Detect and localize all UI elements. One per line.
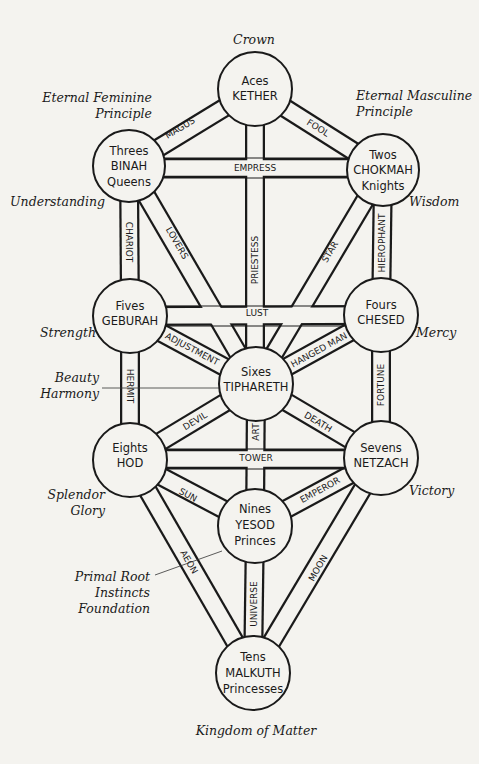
instincts-label: Instincts bbox=[94, 585, 150, 600]
path-label-art: ART bbox=[251, 423, 261, 441]
geburah-line2: GEBURAH bbox=[102, 314, 159, 328]
hod-line2: HOD bbox=[117, 456, 144, 470]
path-label-hierophant: HIEROPHANT bbox=[377, 213, 387, 273]
kingdom-of-matter-label: Kingdom of Matter bbox=[195, 723, 318, 738]
chokmah-line1: Twos bbox=[368, 148, 397, 162]
tree-of-life-diagram: MAGUS FOOL EMPRESS PRIESTESS CHARIOT LOV… bbox=[0, 0, 479, 764]
splendor-label: Splendor bbox=[47, 487, 106, 502]
eternal-masculine-principle-label: Principle bbox=[355, 104, 413, 119]
netzach-line2: NETZACH bbox=[353, 456, 408, 470]
chokmah-line3: Knights bbox=[361, 179, 404, 193]
yesod-line3: Princes bbox=[234, 534, 275, 548]
hod-line1: Eights bbox=[112, 441, 148, 455]
malkuth-line3: Princesses bbox=[223, 682, 283, 696]
strength-label: Strength bbox=[40, 325, 96, 340]
chesed-line2: CHESED bbox=[357, 313, 405, 327]
path-label-chariot: CHARIOT bbox=[124, 222, 134, 263]
beauty-label: Beauty bbox=[54, 370, 100, 385]
crown-label: Crown bbox=[233, 32, 275, 47]
path-label-lust: LUST bbox=[246, 308, 269, 318]
sephirah-tiphareth: Sixes TIPHARETH bbox=[219, 347, 293, 421]
sephirah-kether: Aces KETHER bbox=[218, 52, 292, 126]
geburah-line1: Fives bbox=[116, 299, 145, 313]
sephirah-chesed: Fours CHESED bbox=[344, 278, 418, 352]
yesod-line2: YESOD bbox=[234, 518, 275, 532]
chesed-line1: Fours bbox=[365, 298, 396, 312]
eternal-feminine-label: Eternal Feminine bbox=[41, 90, 152, 105]
netzach-line1: Sevens bbox=[360, 441, 402, 455]
mercy-label: Mercy bbox=[415, 325, 457, 340]
eternal-feminine-principle-label: Principle bbox=[94, 106, 152, 121]
binah-line2: BINAH bbox=[111, 159, 147, 173]
chokmah-line2: CHOKMAH bbox=[353, 163, 413, 177]
sephirah-netzach: Sevens NETZACH bbox=[344, 421, 418, 495]
sephirah-geburah: Fives GEBURAH bbox=[93, 279, 167, 353]
primal-root-label: Primal Root bbox=[74, 569, 151, 584]
yesod-line1: Nines bbox=[239, 502, 271, 516]
understanding-label: Understanding bbox=[10, 194, 105, 209]
path-label-hermit: HERMIT bbox=[125, 369, 135, 404]
glory-label: Glory bbox=[70, 503, 105, 518]
sephirah-malkuth: Tens MALKUTH Princesses bbox=[216, 636, 290, 710]
path-label-fortune: FORTUNE bbox=[376, 364, 386, 407]
sephirah-binah: Threes BINAH Queens bbox=[93, 130, 165, 202]
path-label-tower: TOWER bbox=[238, 453, 272, 463]
sephirah-hod: Eights HOD bbox=[93, 423, 167, 497]
tiphareth-line2: TIPHARETH bbox=[223, 380, 289, 394]
tiphareth-line1: Sixes bbox=[241, 365, 271, 379]
path-label-priestess: PRIESTESS bbox=[250, 236, 260, 285]
foundation-label: Foundation bbox=[77, 601, 150, 616]
binah-line3: Queens bbox=[107, 175, 151, 189]
path-label-universe: UNIVERSE bbox=[249, 581, 259, 627]
malkuth-line1: Tens bbox=[239, 650, 265, 664]
kether-line2: KETHER bbox=[232, 89, 278, 103]
wisdom-label: Wisdom bbox=[409, 194, 459, 209]
binah-line1: Threes bbox=[109, 144, 149, 158]
malkuth-line2: MALKUTH bbox=[225, 666, 281, 680]
sephirah-yesod: Nines YESOD Princes bbox=[218, 489, 292, 563]
victory-label: Victory bbox=[409, 483, 455, 498]
eternal-masculine-label: Eternal Masculine bbox=[355, 88, 472, 103]
harmony-label: Harmony bbox=[39, 386, 100, 401]
kether-line1: Aces bbox=[241, 74, 268, 88]
path-label-empress: EMPRESS bbox=[234, 163, 277, 173]
